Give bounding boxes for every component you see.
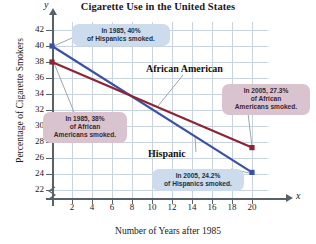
data-point-marker bbox=[49, 43, 54, 48]
callout-line-1: In 1985, 40% bbox=[76, 27, 166, 35]
callout-line-2: of African bbox=[47, 123, 123, 131]
callout-line-1: In 2005, 24.2% bbox=[156, 172, 240, 180]
callout-leader-line bbox=[158, 75, 183, 106]
callout-leader-line bbox=[195, 136, 196, 152]
callout-line-2: of Hispanics smoked. bbox=[76, 35, 166, 43]
series-label-african-american: African American bbox=[146, 63, 223, 74]
callout-line-1: In 2005, 27.3% bbox=[226, 87, 306, 95]
callout-hispanic-2005: In 2005, 24.2% of Hispanics smoked. bbox=[152, 169, 244, 191]
data-point-marker bbox=[49, 59, 54, 64]
data-point-marker bbox=[249, 170, 254, 175]
callout-african-american-1985: In 1985, 38% of African Americans smoked… bbox=[43, 112, 127, 143]
callout-line-1: In 1985, 38% bbox=[47, 115, 123, 123]
data-point-marker bbox=[249, 145, 254, 150]
callout-line-3: Americans smoked. bbox=[226, 103, 306, 111]
callout-line-2: of Hispanics smoked. bbox=[156, 180, 240, 188]
callout-leader-line bbox=[54, 38, 72, 46]
callout-line-3: Americans smoked. bbox=[47, 131, 123, 139]
callout-african-american-2005: In 2005, 27.3% of African Americans smok… bbox=[222, 84, 310, 115]
callout-hispanic-1985: In 1985, 40% of Hispanics smoked. bbox=[72, 24, 170, 46]
series-label-hispanic: Hispanic bbox=[148, 148, 186, 159]
chart-canvas: Cigarette Use in the United States y x 2… bbox=[0, 0, 316, 244]
callout-line-2: of African bbox=[226, 95, 306, 103]
callout-leader-line bbox=[248, 113, 252, 147]
